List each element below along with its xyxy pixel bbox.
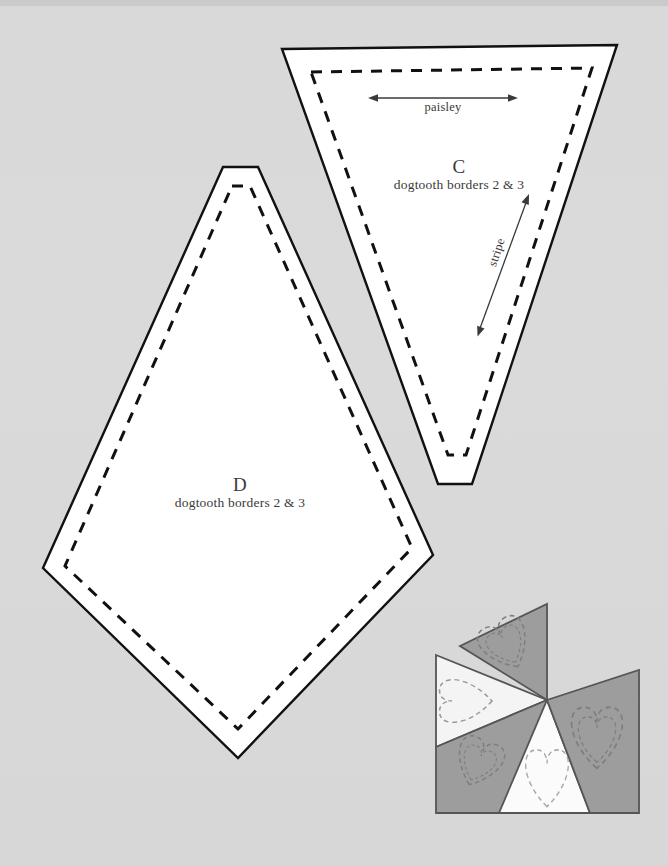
pinwheel-heart-block[interactable] xyxy=(436,604,639,813)
template-sheet xyxy=(0,0,668,866)
